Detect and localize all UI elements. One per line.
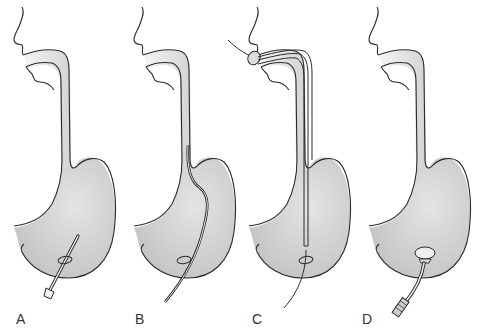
gastrostomy-illustration xyxy=(0,0,484,333)
panel-d xyxy=(369,7,471,317)
panel-b xyxy=(134,7,236,302)
panel-label-b: B xyxy=(135,311,144,327)
panel-label-a: A xyxy=(16,311,25,327)
panel-label-c: C xyxy=(252,311,262,327)
panel-c xyxy=(228,7,351,308)
panel-a xyxy=(14,7,116,299)
panel-label-d: D xyxy=(362,311,372,327)
